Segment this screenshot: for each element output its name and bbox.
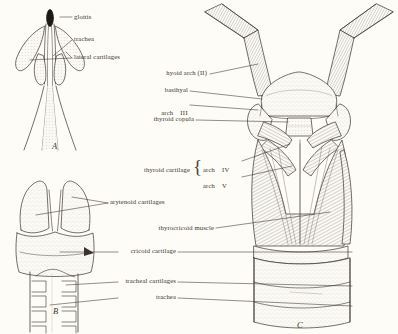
label-glottis: glottis (74, 14, 92, 21)
leader-arch-iii (190, 105, 258, 110)
label-arch-v-roman: V (222, 182, 227, 189)
arytenoid-left (20, 181, 49, 233)
basihyal-plate (261, 72, 337, 116)
leader-tracheal-cartilages (66, 282, 118, 285)
panel-letter-c: C (297, 320, 303, 330)
label-thyroid-cartilage: thyroid cartilage (144, 167, 190, 174)
leader-basihyal (190, 91, 262, 99)
label-tracheal-cartilages: tracheal cartilages (125, 278, 176, 285)
label-arch-iv-roman: IV (222, 166, 230, 173)
hyoid-rod-right-outer (340, 4, 393, 38)
label-thyrocricoid-muscle: thyrocricoid muscle (159, 225, 214, 232)
label-brace: { (193, 157, 202, 176)
label-basihyal: basihyal (165, 87, 188, 94)
label-arch-v-word: arch (203, 182, 215, 189)
glottis-shape (47, 10, 54, 27)
leader-trachea-b (50, 298, 118, 305)
cricoid-cartilage-shape (16, 232, 94, 277)
thyroid-copula-shape (286, 118, 313, 136)
panel-a-drawing (16, 10, 85, 151)
label-thyroid-copula: thyroid copula (154, 116, 194, 123)
label-trachea-b: trachea (156, 294, 176, 301)
label-cricoid-cartilage: cricoid cartilage (131, 248, 176, 255)
trachea-body-c (254, 258, 350, 328)
hyoid-rod-left-outer (205, 4, 258, 38)
label-arytenoid-cartilages: arytenoid cartilages (110, 199, 165, 206)
panel-c-drawing (205, 4, 393, 328)
leader-thyroid-copula (196, 120, 288, 122)
label-arch-iv-word: arch (203, 166, 215, 173)
label-lateral-cartilages: lateral cartilages (74, 54, 120, 61)
panel-letter-a: A (52, 141, 57, 151)
label-arch-v-group: arch V (203, 174, 227, 192)
label-hyoid-arch: hyoid arch (II) (166, 70, 207, 77)
panel-letter-b: B (53, 306, 58, 316)
anatomy-plate: glottis trachea lateral cartilages A ary… (0, 0, 398, 334)
label-trachea-a: trachea (74, 36, 94, 43)
